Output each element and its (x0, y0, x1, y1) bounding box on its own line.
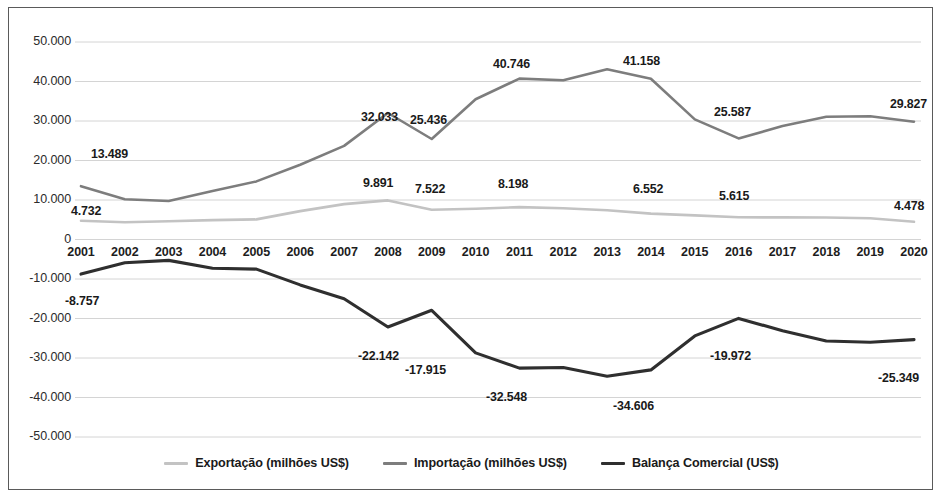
legend-line-icon (383, 462, 407, 465)
data-point-label: -32.548 (486, 390, 527, 404)
x-axis-tick-label: 2017 (760, 245, 804, 259)
data-point-label: -34.606 (613, 399, 654, 413)
legend-item[interactable]: Balança Comercial (US$) (601, 456, 779, 470)
x-axis-tick-label: 2018 (804, 245, 848, 259)
chart-frame: 50.00040.00030.00020.00010.0000-10.000-2… (8, 7, 933, 490)
data-point-label: 25.587 (714, 105, 751, 119)
legend-item[interactable]: Exportação (milhões US$) (164, 456, 349, 470)
data-point-label: 4.732 (71, 204, 101, 218)
x-axis-tick-label: 2007 (322, 245, 366, 259)
trade-balance-chart: 50.00040.00030.00020.00010.0000-10.000-2… (0, 0, 948, 498)
series-line (81, 200, 914, 222)
y-axis-tick-label: -20.000 (9, 311, 71, 325)
y-axis-tick-label: -50.000 (9, 429, 71, 443)
data-point-label: -8.757 (65, 294, 99, 308)
y-axis-tick-label: 20.000 (9, 153, 71, 167)
data-point-label: 29.827 (890, 97, 927, 111)
x-axis-tick-label: 2010 (454, 245, 498, 259)
gridlines (75, 42, 921, 437)
x-axis-tick-label: 2004 (191, 245, 235, 259)
x-axis-tick-label: 2003 (147, 245, 191, 259)
legend-line-icon (164, 462, 188, 465)
series-lines (81, 69, 914, 376)
data-point-label: 41.158 (623, 54, 660, 68)
data-point-label: 4.478 (894, 199, 924, 213)
x-axis-tick-label: 2020 (892, 245, 936, 259)
legend-item-label: Exportação (milhões US$) (195, 456, 349, 470)
x-axis-tick-label: 2013 (585, 245, 629, 259)
data-point-label: -22.142 (358, 349, 399, 363)
data-point-label: 40.746 (493, 57, 530, 71)
y-axis-tick-label: 10.000 (9, 192, 71, 206)
y-axis-tick-label: 40.000 (9, 74, 71, 88)
data-point-label: 5.615 (719, 189, 749, 203)
data-point-label: 13.489 (91, 147, 128, 161)
data-point-label: -19.972 (710, 349, 751, 363)
chart-legend: Exportação (milhões US$)Importação (milh… (9, 456, 934, 470)
x-axis-tick-label: 2014 (629, 245, 673, 259)
x-axis-tick-label: 2005 (234, 245, 278, 259)
data-point-label: 6.552 (633, 182, 663, 196)
data-point-label: -17.915 (405, 363, 446, 377)
x-axis-tick-label: 2016 (717, 245, 761, 259)
data-point-label: 32.033 (361, 110, 398, 124)
x-axis-tick-label: 2006 (278, 245, 322, 259)
y-axis-tick-label: 0 (9, 232, 71, 246)
legend-item-label: Importação (milhões US$) (414, 456, 567, 470)
x-axis-tick-label: 2011 (497, 245, 541, 259)
data-point-label: -25.349 (878, 371, 919, 385)
x-axis-tick-label: 2012 (541, 245, 585, 259)
x-axis-tick-label: 2015 (673, 245, 717, 259)
x-axis-tick-label: 2008 (366, 245, 410, 259)
x-axis-tick-label: 2002 (103, 245, 147, 259)
legend-item-label: Balança Comercial (US$) (632, 456, 779, 470)
x-axis-tick-label: 2009 (410, 245, 454, 259)
y-axis-tick-label: 30.000 (9, 113, 71, 127)
y-axis-tick-label: -30.000 (9, 350, 71, 364)
y-axis-tick-label: 50.000 (9, 34, 71, 48)
data-point-label: 9.891 (363, 176, 393, 190)
legend-line-icon (601, 462, 625, 465)
y-axis-tick-label: -40.000 (9, 390, 71, 404)
data-point-label: 8.198 (498, 177, 528, 191)
y-axis-tick-label: -10.000 (9, 271, 71, 285)
x-axis-tick-label: 2019 (848, 245, 892, 259)
x-axis-tick-label: 2001 (59, 245, 103, 259)
data-point-label: 7.522 (415, 182, 445, 196)
data-point-label: 25.436 (410, 113, 447, 127)
legend-item[interactable]: Importação (milhões US$) (383, 456, 567, 470)
